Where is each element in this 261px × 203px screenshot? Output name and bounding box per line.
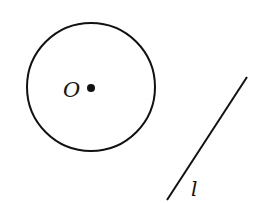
- geometry-diagram: O l: [0, 0, 261, 203]
- center-point: [87, 84, 95, 92]
- line-l: [167, 77, 247, 200]
- line-label: l: [191, 177, 197, 201]
- center-label: O: [63, 78, 80, 102]
